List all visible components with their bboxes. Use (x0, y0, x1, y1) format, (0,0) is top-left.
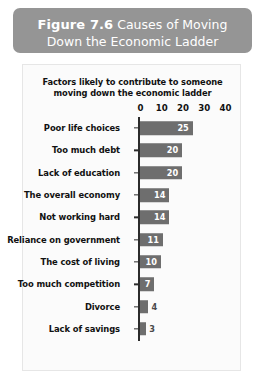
bar-category-label: Lack of savings (49, 324, 120, 334)
figure-number: Figure 7.6 (38, 17, 114, 32)
bar-category-label: Too much competition (18, 279, 120, 289)
bar (140, 322, 146, 336)
y-axis-tick-mark (134, 150, 139, 151)
y-axis-tick-mark (134, 172, 139, 173)
bar-row: Not working hard14 (23, 206, 242, 228)
bar-value-label: 25 (140, 123, 189, 133)
bar-row: Too much competition7 (23, 273, 242, 295)
chart-title-line-2: moving down the economic ladder (23, 88, 242, 99)
x-axis-tick-labels: 010203040 (23, 103, 242, 116)
bar-category-label: The overall economy (24, 190, 120, 200)
bar-category-label: Reliance on government (7, 235, 120, 245)
bar-row: Too much debt20 (23, 139, 242, 161)
figure-caption-text-2: Down the Economic Ladder (47, 34, 219, 49)
y-axis-tick-mark (134, 127, 139, 128)
bar-category-label: Lack of education (38, 168, 120, 178)
bar-row: Reliance on government11 (23, 228, 242, 250)
y-axis-tick-mark (134, 284, 139, 285)
chart-panel: Factors likely to contribute to someone … (22, 64, 241, 371)
bar-row: Poor life choices25 (23, 117, 242, 139)
bar-row: Lack of savings3 (23, 318, 242, 340)
bar-value-label: 10 (140, 257, 157, 267)
bar-row: Divorce4 (23, 295, 242, 317)
chart-title-line-1: Factors likely to contribute to someone (23, 77, 242, 88)
x-axis-tick-30: 30 (198, 103, 210, 113)
figure-caption-line-2: Down the Economic Ladder (23, 33, 242, 50)
bar-row: The cost of living10 (23, 251, 242, 273)
bar-row: Lack of education20 (23, 162, 242, 184)
y-axis-tick-mark (134, 328, 139, 329)
figure-header-banner: Figure 7.6 Causes of Moving Down the Eco… (13, 8, 252, 53)
plot-area: 010203040 Poor life choices25Too much de… (23, 103, 242, 363)
bar-value-label: 4 (151, 302, 157, 312)
bar (140, 300, 149, 314)
bar-value-label: 3 (149, 324, 155, 334)
chart-title: Factors likely to contribute to someone … (23, 77, 242, 99)
bar-value-label: 14 (140, 212, 166, 222)
bar-category-label: Poor life choices (44, 123, 120, 133)
x-axis-tick-20: 20 (177, 103, 189, 113)
y-axis-tick-mark (134, 194, 139, 195)
bar-category-label: Too much debt (52, 145, 120, 155)
y-axis-tick-mark (134, 261, 139, 262)
figure-caption-text-1: Causes of Moving (117, 17, 227, 32)
bar-rows-container: Poor life choices25Too much debt20Lack o… (23, 117, 242, 340)
bar-value-label: 20 (140, 168, 179, 178)
bar-value-label: 14 (140, 190, 166, 200)
bar-category-label: The cost of living (41, 257, 120, 267)
x-axis-tick-10: 10 (156, 103, 168, 113)
bar-category-label: Divorce (85, 302, 120, 312)
figure-caption-line-1: Figure 7.6 Causes of Moving (23, 16, 242, 33)
bar-row: The overall economy14 (23, 184, 242, 206)
bar-category-label: Not working hard (39, 212, 120, 222)
y-axis-tick-mark (134, 217, 139, 218)
x-axis-tick-40: 40 (220, 103, 232, 113)
y-axis-tick-mark (134, 306, 139, 307)
bar-value-label: 7 (140, 279, 151, 289)
bar-value-label: 20 (140, 145, 179, 155)
bar-value-label: 11 (140, 235, 159, 245)
x-axis-tick-0: 0 (137, 103, 143, 113)
y-axis-tick-mark (134, 239, 139, 240)
